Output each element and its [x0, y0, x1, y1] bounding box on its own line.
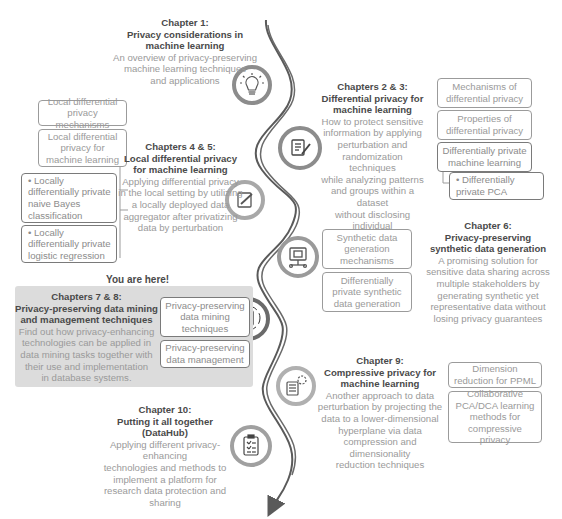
chapter-7-8-desc-line: data mining tasks together with — [15, 349, 158, 361]
topic-ldp-naive-bayes: • Locally differentially private naive B… — [21, 173, 117, 223]
chapter-6-title-line: Privacy-preserving — [418, 232, 558, 244]
chapter-2-3-title-line: machine learning — [320, 104, 425, 116]
topic-mechanisms-dp: Mechanisms of differential privacy — [437, 78, 532, 108]
chapter-9-number: Chapter 9: — [316, 355, 444, 367]
chapter-1: Chapter 1: Privacy considerations in mac… — [105, 17, 265, 87]
topic-dp-synthetic: Differentially private synthetic data ge… — [322, 272, 412, 312]
chapter-6-number: Chapter 6: — [418, 220, 558, 232]
chapter-9-desc-line: compression and dimensionality — [316, 436, 444, 459]
chapter-9-title-line: machine learning — [316, 378, 444, 390]
chapter-2-3-desc-line: information by applying — [320, 127, 425, 139]
chapter-1-number: Chapter 1: — [105, 17, 265, 29]
chapter-2-3-desc-line: How to protect sensitive — [320, 116, 425, 128]
chapter-4-5-title-line: for machine learning — [118, 164, 243, 176]
chapter-7-8-desc-line: Find out how privacy-enhancing — [15, 326, 158, 338]
chapter-6: Chapter 6: Privacy-preserving synthetic … — [418, 220, 558, 324]
chapter-1-desc-line: machine learning techniques — [105, 63, 265, 75]
chapter-4-5-desc-line: data by perturbation — [118, 222, 243, 234]
chapter-6-desc-line: sensitive data sharing across — [418, 266, 558, 278]
chapter-7-8-title-line: Privacy-preserving data mining — [15, 303, 158, 315]
chapter-9-title-line: Compressive privacy for — [316, 367, 444, 379]
chapter-6-title-line: synthetic data generation — [418, 243, 558, 255]
chapter-7-8: Chapters 7 & 8: Privacy-preserving data … — [15, 291, 158, 384]
chapter-1-desc-line: An overview of privacy-preserving — [105, 52, 265, 64]
chapter-9: Chapter 9: Compressive privacy for machi… — [316, 355, 444, 471]
chapter-2-3-desc-line: randomization techniques — [320, 151, 425, 174]
topic-dp-ml: Differentially private machine learning — [437, 142, 532, 172]
chapter-9-desc-line: reduction techniques — [316, 459, 444, 471]
chapter-2-3-desc-line: while analyzing patterns — [320, 174, 425, 186]
you-are-here-label: You are here! — [106, 274, 166, 285]
topic-pp-data-management: Privacy-preserving data management — [160, 340, 250, 368]
chapter-1-desc-line: and applications — [105, 75, 265, 87]
chapter-4-5-title-line: Local differential privacy — [118, 153, 243, 165]
chapter-9-desc-line: perturbation by projecting the — [316, 401, 444, 413]
chapter-10: Chapter 10: Putting it all together (Dat… — [95, 404, 235, 508]
chapter-2-3-desc-line: and groups within a dataset — [320, 185, 425, 208]
chapter-9-desc-line: data to a lower-dimensional — [316, 413, 444, 425]
chapter-7-8-desc-line: technologies can be applied in — [15, 337, 158, 349]
chapter-10-title-line: Putting it all together (DataHub) — [95, 416, 235, 439]
chapter-6-desc-line: generating synthetic yet — [418, 290, 558, 302]
chapter-6-desc-line: losing privacy guarantees — [418, 313, 558, 325]
chapter-10-desc-line: research data protection and — [95, 485, 235, 497]
chapter-2-3: Chapters 2 & 3: Differential privacy for… — [320, 81, 425, 243]
topic-ldp-ml: Local differential privacy for machine l… — [38, 129, 127, 167]
chapter-10-desc-line: Applying different privacy-enhancing — [95, 439, 235, 462]
chapter-2-3-number: Chapters 2 & 3: — [320, 81, 425, 93]
chapter-6-desc-line: representative data without — [418, 301, 558, 313]
topic-dimension-reduction: Dimension reduction for PPML — [448, 362, 542, 388]
chapter-2-3-title-line: Differential privacy for — [320, 93, 425, 105]
topic-dp-pca: • Differentially private PCA — [449, 172, 544, 200]
topic-synthetic-mechanisms: Synthetic data generation mechanisms — [322, 229, 412, 269]
topic-collaborative-pca-dca: Collaborative PCA/DCA learning methods f… — [448, 391, 542, 443]
topic-properties-dp: Properties of differential privacy — [437, 110, 532, 140]
chapter-2-3-desc-line: perturbation and — [320, 139, 425, 151]
topic-ppdm-techniques: Privacy-preserving data mining technique… — [160, 297, 250, 337]
ring-ch23 — [280, 128, 320, 168]
chapter-4-5-number: Chapters 4 & 5: — [118, 141, 243, 153]
chapter-6-desc-line: multiple stakeholders by — [418, 278, 558, 290]
chapter-9-desc-line: hyperplane via data — [316, 425, 444, 437]
chapter-4-5-desc-line: aggregator after privatizing — [118, 211, 243, 223]
chapter-4-5-desc-line: in the local setting by utilizing — [118, 187, 243, 199]
topic-ldp-logistic-regression: • Locally differentially private logisti… — [21, 225, 117, 263]
chapter-7-8-number: Chapters 7 & 8: — [15, 291, 158, 303]
chapter-9-desc-line: Another approach to data — [316, 390, 444, 402]
chapter-1-title-line: Privacy considerations in — [105, 29, 265, 41]
chapter-7-8-desc-line: in database systems. — [15, 372, 158, 384]
chapter-10-desc-line: sharing — [95, 497, 235, 509]
ring-ch9 — [278, 368, 314, 404]
chapter-10-desc-line: technologies and methods to — [95, 462, 235, 474]
chapter-7-8-desc-line: their use and implementation — [15, 361, 158, 373]
chapter-1-title-line: machine learning — [105, 40, 265, 52]
chapter-10-desc-line: implement a platform for — [95, 474, 235, 486]
chapter-4-5: Chapters 4 & 5: Local differential priva… — [118, 141, 243, 234]
chapter-4-5-desc-line: a locally deployed data — [118, 199, 243, 211]
chapter-6-desc-line: A promising solution for — [418, 255, 558, 267]
chapter-10-number: Chapter 10: — [95, 404, 235, 416]
chapter-7-8-title-line: and management techniques — [15, 314, 158, 326]
topic-ldp-mechanisms: Local differential privacy mechanisms — [38, 100, 127, 126]
chapter-4-5-desc-line: Applying differential privacy — [118, 176, 243, 188]
